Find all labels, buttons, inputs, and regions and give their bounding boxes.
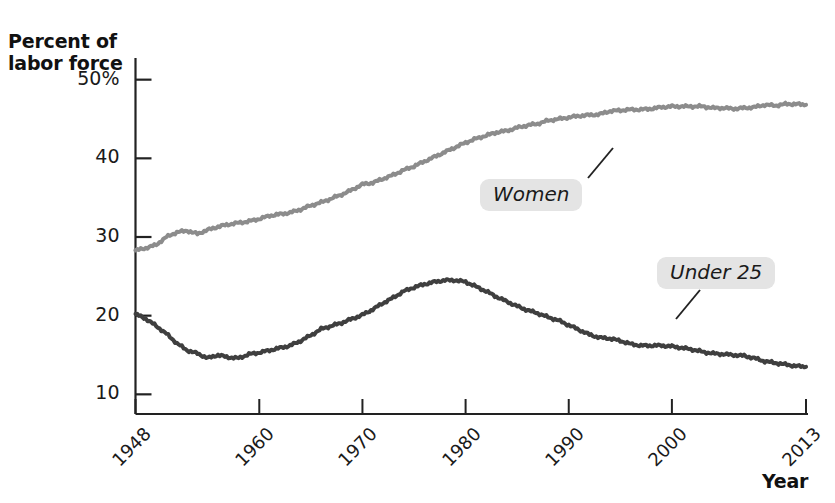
series-line-women bbox=[136, 103, 807, 251]
y-tick-label: 10 bbox=[48, 381, 120, 403]
series-line-under-25 bbox=[136, 279, 807, 367]
series-label-under-25: Under 25 bbox=[657, 257, 775, 289]
labor-force-line-chart: Percent of labor force Year 50%40302010 … bbox=[0, 0, 835, 503]
y-tick-label: 20 bbox=[48, 303, 120, 325]
plot-area bbox=[0, 0, 835, 503]
y-tick-label: 40 bbox=[48, 145, 120, 167]
y-tick-label: 30 bbox=[48, 224, 120, 246]
series-label-women: Women bbox=[480, 179, 582, 211]
y-tick-label: 50% bbox=[48, 67, 120, 89]
leader-line-women bbox=[588, 148, 613, 178]
leader-line-under-25 bbox=[676, 290, 700, 319]
